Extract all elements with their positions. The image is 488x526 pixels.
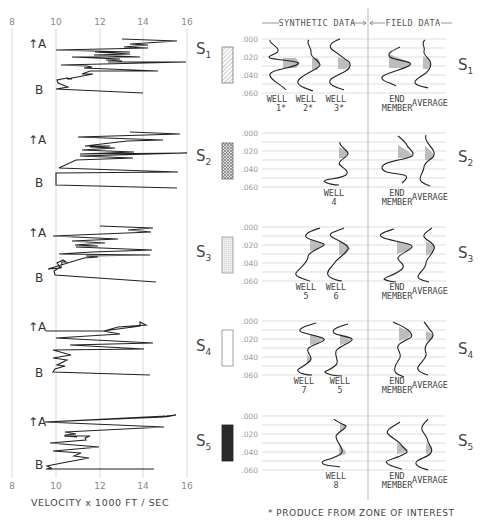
s5-left-label: S5 — [196, 432, 211, 452]
s1-time-ticks: .000 .020 .040 .060 — [241, 35, 258, 98]
row-s1: S1 .000 .020 .040 .060 WELL 1* WEL — [196, 35, 473, 113]
average-trace-s2 — [420, 135, 434, 186]
svg-text:.040: .040 — [241, 448, 258, 457]
svg-text:.060: .060 — [241, 371, 258, 380]
s5-time-grid — [262, 416, 446, 470]
svg-text:.060: .060 — [241, 466, 258, 475]
s3-right-label: S3 — [458, 244, 473, 264]
s2-time-grid — [262, 133, 446, 187]
svg-text:4: 4 — [331, 197, 336, 207]
tick-bottom-14: 14 — [137, 481, 149, 491]
svg-text:1*: 1* — [276, 103, 286, 113]
marker-a-s1: ↑A — [28, 37, 47, 51]
field-data-heading: FIELD DATA — [385, 18, 440, 28]
s5-lithology-box — [222, 425, 233, 461]
s1-waveforms — [269, 39, 431, 91]
svg-text:6: 6 — [333, 291, 338, 301]
svg-text:.000: .000 — [241, 35, 258, 44]
svg-text:.020: .020 — [241, 241, 258, 250]
figure-canvas: 8 10 12 14 16 8 10 12 14 16 VELOCITY x 1… — [0, 0, 488, 526]
well-4-trace — [324, 142, 348, 185]
marker-b-s3: B — [35, 271, 43, 285]
marker-a-s3: ↑A — [28, 226, 47, 240]
tick-top-12: 12 — [94, 17, 105, 27]
svg-text:.060: .060 — [241, 89, 258, 98]
svg-text:3*: 3* — [334, 103, 344, 113]
tick-bottom-8: 8 — [9, 481, 15, 491]
svg-text:MEMBER: MEMBER — [382, 197, 414, 207]
s2-right-label: S2 — [458, 148, 473, 168]
svg-text:.040: .040 — [241, 71, 258, 80]
s3-lithology-box — [222, 237, 233, 273]
velocity-logs — [45, 39, 187, 469]
svg-text:.040: .040 — [241, 353, 258, 362]
velocity-log-s4 — [46, 322, 153, 375]
s4-right-label: S4 — [458, 340, 474, 360]
s1-left-label: S1 — [196, 40, 211, 60]
svg-text:MEMBER: MEMBER — [382, 480, 414, 490]
marker-b-s4: B — [35, 366, 43, 380]
svg-text:AVERAGE: AVERAGE — [412, 98, 448, 108]
svg-text:AVERAGE: AVERAGE — [412, 380, 448, 390]
tick-bottom-12: 12 — [94, 481, 105, 491]
s4-time-ticks: .000 .020 .040 .060 — [241, 317, 258, 380]
svg-text:.000: .000 — [241, 129, 258, 138]
marker-a-s4: ↑A — [28, 320, 47, 334]
s2-waveforms — [324, 135, 434, 186]
svg-text:7: 7 — [301, 385, 306, 395]
velocity-log-s5 — [45, 415, 176, 469]
svg-text:MEMBER: MEMBER — [382, 103, 414, 113]
svg-text:.020: .020 — [241, 147, 258, 156]
svg-text:AVERAGE: AVERAGE — [412, 286, 448, 296]
svg-text:.000: .000 — [241, 223, 258, 232]
svg-text:.020: .020 — [241, 53, 258, 62]
velocity-top-ticks: 8 10 12 14 16 — [9, 17, 193, 27]
svg-text:AVERAGE: AVERAGE — [412, 475, 448, 485]
svg-text:5: 5 — [337, 385, 342, 395]
marker-b-s2: B — [35, 176, 43, 190]
s4-left-label: S4 — [196, 337, 212, 357]
s4-trace-captions: WELL 7 WELL 5 END MEMBER AVERAGE — [294, 376, 448, 395]
velocity-axis-label: VELOCITY x 1000 FT / SEC — [31, 497, 169, 508]
tick-top-16: 16 — [181, 17, 193, 27]
s1-lithology-box — [222, 47, 233, 83]
velocity-bottom-ticks: 8 10 12 14 16 — [9, 481, 193, 491]
svg-text:MEMBER: MEMBER — [382, 385, 414, 395]
s2-trace-captions: WELL 4 END MEMBER AVERAGE — [324, 188, 448, 207]
synthetic-data-heading: SYNTHETIC DATA — [278, 18, 355, 28]
tick-top-10: 10 — [50, 17, 62, 27]
end-member-trace-s3 — [380, 229, 412, 282]
row-s4: S4 .000 .020 .040 .060 WELL 7 WELL — [196, 317, 474, 395]
s4-lithology-box — [222, 330, 233, 366]
s2-time-ticks: .000 .020 .040 .060 — [241, 129, 258, 192]
tick-top-8: 8 — [9, 17, 15, 27]
svg-text:MEMBER: MEMBER — [382, 291, 414, 301]
s2-lithology-box — [222, 143, 233, 179]
s3-left-label: S3 — [196, 243, 211, 263]
s3-time-grid — [262, 227, 446, 281]
svg-text:.040: .040 — [241, 165, 258, 174]
marker-a-s5: ↑A — [28, 415, 47, 429]
s3-time-ticks: .000 .020 .040 .060 — [241, 223, 258, 286]
well-7-trace — [298, 323, 324, 375]
svg-text:5: 5 — [303, 291, 308, 301]
row-s2: S2 .000 .020 .040 .060 WELL 4 END MEMBER… — [196, 129, 473, 207]
velocity-log-s2 — [56, 132, 187, 188]
tick-top-14: 14 — [137, 17, 149, 27]
velocity-log-s3 — [48, 226, 156, 282]
s5-trace-captions: WELL 8 END MEMBER AVERAGE — [326, 471, 448, 490]
svg-text:.000: .000 — [241, 317, 258, 326]
velocity-panel: 8 10 12 14 16 8 10 12 14 16 VELOCITY x 1… — [9, 17, 193, 508]
svg-text:2*: 2* — [303, 103, 313, 113]
well-5-trace-s4 — [325, 324, 352, 376]
end-member-trace-s2 — [382, 136, 413, 183]
tick-bottom-16: 16 — [181, 481, 193, 491]
svg-text:.060: .060 — [241, 183, 258, 192]
svg-text:.020: .020 — [241, 430, 258, 439]
end-member-trace-s5 — [386, 422, 407, 469]
marker-b-s1: B — [35, 83, 43, 97]
row-s3: S3 .000 .020 .040 .060 WELL 5 WELL 6 — [196, 223, 473, 301]
svg-text:8: 8 — [333, 480, 338, 490]
s1-right-label: S1 — [458, 56, 473, 76]
marker-labels: ↑A B ↑A B ↑A B ↑A B ↑A B — [28, 37, 47, 472]
